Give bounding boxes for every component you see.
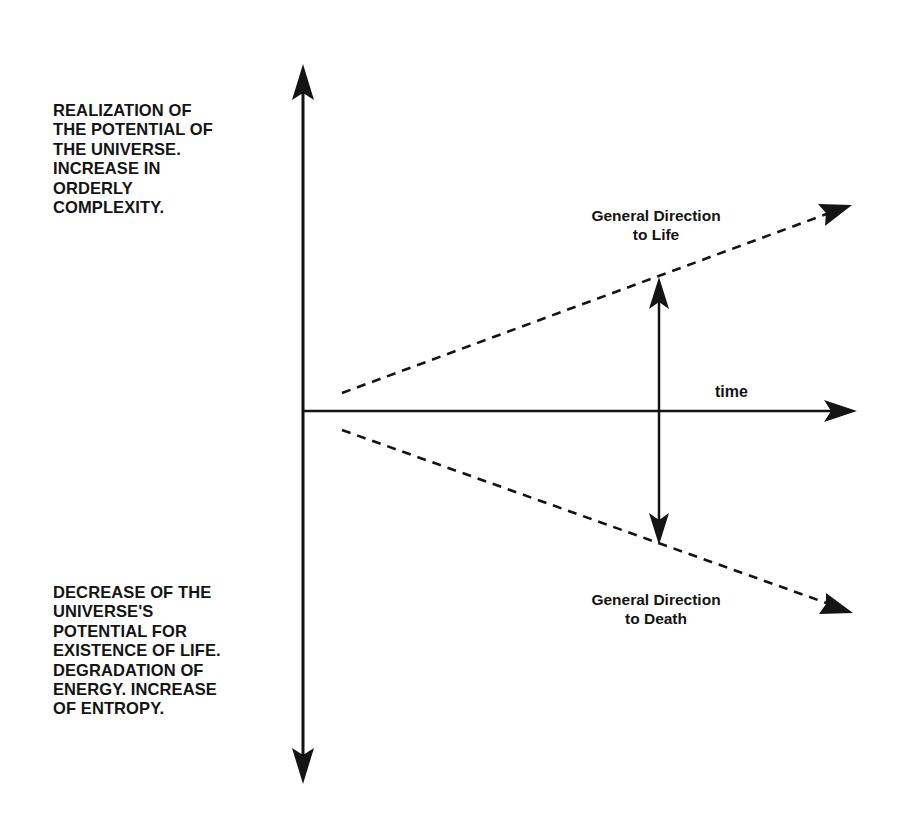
bottom-caption-line: DECREASE OF THE	[53, 583, 221, 602]
life-direction-label: General Direction to Life	[566, 206, 746, 244]
bottom-caption-line: DEGRADATION OF	[53, 661, 221, 680]
death-label-line: to Death	[566, 609, 746, 628]
top-caption: REALIZATION OF THE POTENTIAL OF THE UNIV…	[53, 101, 213, 217]
death-label-line: General Direction	[566, 590, 746, 609]
vertical-axis	[292, 64, 314, 784]
bottom-caption-line: OF ENTROPY.	[53, 699, 221, 718]
top-caption-line: ORDERLY	[53, 179, 213, 198]
top-caption-line: THE UNIVERSE.	[53, 140, 213, 159]
time-axis-label: time	[715, 383, 748, 401]
top-caption-line: REALIZATION OF	[53, 101, 213, 120]
time-axis	[303, 400, 857, 422]
bottom-caption-line: EXISTENCE OF LIFE.	[53, 641, 221, 660]
bottom-caption: DECREASE OF THE UNIVERSE'S POTENTIAL FOR…	[53, 583, 221, 719]
bottom-caption-line: UNIVERSE'S	[53, 602, 221, 621]
trend-death-line	[342, 430, 853, 614]
top-caption-line: INCREASE IN	[53, 159, 213, 178]
life-label-line: General Direction	[566, 206, 746, 225]
bottom-caption-line: POTENTIAL FOR	[53, 622, 221, 641]
top-caption-line: THE POTENTIAL OF	[53, 120, 213, 139]
life-label-line: to Life	[566, 225, 746, 244]
bottom-caption-line: ENERGY. INCREASE	[53, 680, 221, 699]
top-caption-line: COMPLEXITY.	[53, 198, 213, 217]
death-direction-label: General Direction to Death	[566, 590, 746, 628]
